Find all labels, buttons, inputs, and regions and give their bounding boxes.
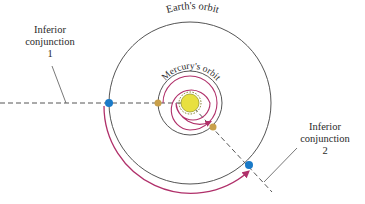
earth-position-1 xyxy=(105,99,113,107)
mercury-position-2 xyxy=(210,124,217,131)
svg-text:Mercury's orbit: Mercury's orbit xyxy=(160,61,223,83)
earth-path xyxy=(104,106,248,193)
earth-position-2 xyxy=(245,161,253,169)
sun-icon xyxy=(179,92,201,114)
conjunction-2-label: Inferior conjunction 2 xyxy=(290,121,360,157)
mercury-orbit-label: Mercury's orbit xyxy=(160,61,223,83)
conjunction-1-label: Inferior conjunction 1 xyxy=(18,24,82,60)
leader-line-1 xyxy=(52,66,66,103)
earth-orbit-label: Earth's orbit xyxy=(165,0,221,15)
svg-text:Earth's orbit: Earth's orbit xyxy=(165,0,221,15)
conjunction-line-2 xyxy=(194,108,272,192)
mercury-position-1 xyxy=(155,100,162,107)
